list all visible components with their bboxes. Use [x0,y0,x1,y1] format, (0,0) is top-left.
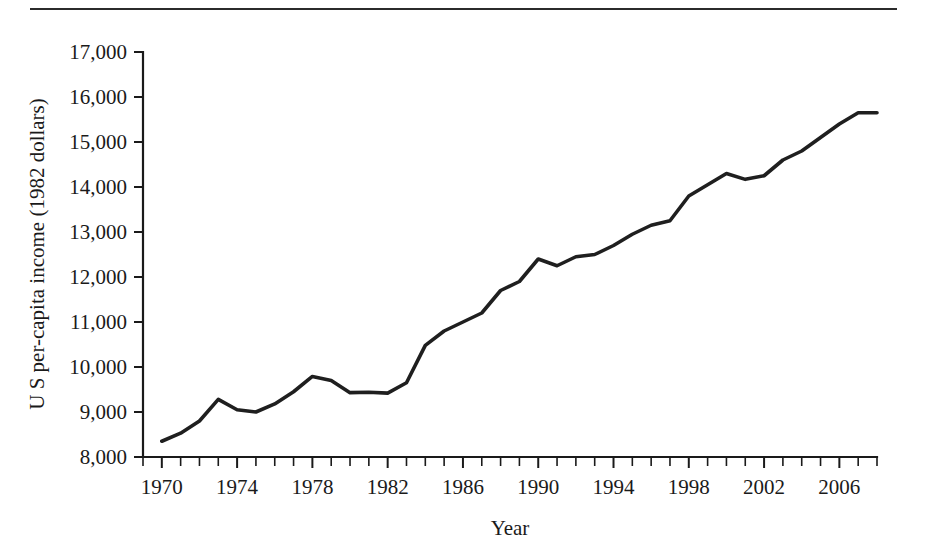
data-line-us-per-capita-income [162,113,877,442]
y-tick-label: 8,000 [80,445,127,469]
x-tick-label: 1978 [291,475,333,499]
x-tick-label: 1970 [141,475,183,499]
x-tick-label: 1990 [517,475,559,499]
x-tick-label: 1998 [668,475,710,499]
x-axis: 1970197419781982198619901994199820022006 [141,457,877,499]
data-series-group [162,113,877,442]
y-tick-label: 13,000 [69,220,127,244]
y-tick-label: 10,000 [69,355,127,379]
chart-plot-area: 8,0009,00010,00011,00012,00013,00014,000… [0,0,925,552]
y-tick-label: 12,000 [69,265,127,289]
x-axis-title: Year [491,516,530,540]
x-tick-label: 1982 [367,475,409,499]
x-tick-label: 2002 [743,475,785,499]
y-tick-label: 15,000 [69,130,127,154]
x-tick-label: 1994 [593,475,636,499]
x-tick-label: 1974 [216,475,259,499]
y-axis: 8,0009,00010,00011,00012,00013,00014,000… [69,40,143,469]
figure-container: 8,0009,00010,00011,00012,00013,00014,000… [0,0,925,552]
line-chart: 8,0009,00010,00011,00012,00013,00014,000… [0,0,925,552]
y-axis-title: U S per-capita income (1982 dollars) [25,98,49,410]
y-tick-label: 11,000 [70,310,127,334]
x-tick-label: 2006 [818,475,860,499]
y-tick-label: 16,000 [69,85,127,109]
y-tick-label: 9,000 [80,400,127,424]
y-tick-label: 14,000 [69,175,127,199]
x-tick-label: 1986 [442,475,484,499]
y-tick-group: 8,0009,00010,00011,00012,00013,00014,000… [69,40,143,469]
y-tick-label: 17,000 [69,40,127,64]
x-tick-group: 1970197419781982198619901994199820022006 [141,457,877,499]
